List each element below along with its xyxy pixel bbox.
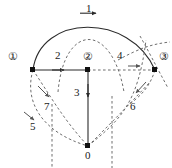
node-marker-n3[interactable]	[152, 67, 157, 72]
edge-5-arrowhead	[24, 112, 34, 120]
node-marker-n2[interactable]	[85, 67, 90, 72]
node-label-2: ②	[83, 51, 93, 62]
edge-label-3: 3	[74, 87, 80, 98]
edge-label-7: 7	[44, 101, 50, 112]
node-label-0: 0	[85, 150, 91, 161]
dashed-arc-right-cross	[140, 36, 168, 88]
edge-6-curve	[88, 82, 150, 146]
solid-edges	[33, 13, 155, 146]
node-marker-n1[interactable]	[30, 67, 35, 72]
diagram-canvas	[0, 0, 172, 168]
graph-diagram: ① ② ③ 0 1 2 3 4 5 6 7	[0, 0, 172, 168]
dashed-arrowheads	[24, 66, 146, 120]
edge-1-arc	[33, 27, 155, 70]
edge-label-4: 4	[117, 50, 123, 61]
dashed-arc-over-node2	[58, 40, 124, 93]
edge-label-6: 6	[130, 101, 136, 112]
node-label-3: ③	[159, 51, 169, 62]
dashed-edges	[31, 36, 170, 168]
edge-label-2: 2	[55, 50, 61, 61]
edge-label-1: 1	[86, 3, 92, 14]
node-marker-n0[interactable]	[85, 143, 90, 148]
node-label-1: ①	[8, 51, 18, 62]
edge-label-5: 5	[30, 121, 36, 132]
